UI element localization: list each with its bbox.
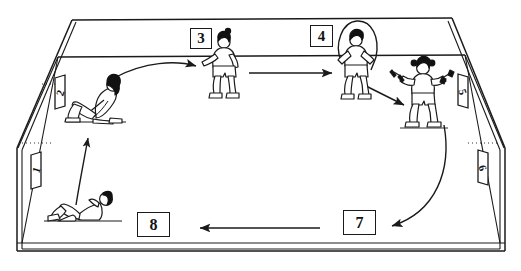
back-wall-top-edge xyxy=(72,18,452,20)
figure-lying-supine xyxy=(44,191,122,221)
station-box-7[interactable]: 7 xyxy=(343,210,376,235)
figure-dumbbells xyxy=(390,56,454,128)
station-box-3[interactable]: 3 xyxy=(190,28,212,49)
figure-jump-rope xyxy=(338,21,377,99)
figure-situp-seated xyxy=(65,74,126,124)
arrow-seated-to-standing xyxy=(116,63,196,77)
wall-marker-5[interactable] xyxy=(458,74,468,108)
station-box-8[interactable]: 8 xyxy=(137,212,170,237)
left-wall-base-edge xyxy=(18,57,58,148)
back-wall-base-edge xyxy=(58,55,465,57)
arrow-lying-to-seated xyxy=(76,138,88,205)
right-wall-base-edge xyxy=(465,55,504,148)
left-wall-top-edge-inner xyxy=(22,22,76,150)
right-wall-top-edge-inner xyxy=(448,21,500,150)
station-box-4[interactable]: 4 xyxy=(310,25,333,47)
wall-marker-6[interactable] xyxy=(478,150,488,185)
floor-right-edge xyxy=(465,55,500,243)
wall-marker-2[interactable] xyxy=(55,75,65,109)
arrow-dumbbells-to-box7 xyxy=(392,125,446,226)
room-perspective-drawing xyxy=(0,0,521,271)
wall-marker-1[interactable] xyxy=(31,152,41,189)
diagram-canvas: 3 4 7 8 1 2 5 6 xyxy=(0,0,521,271)
